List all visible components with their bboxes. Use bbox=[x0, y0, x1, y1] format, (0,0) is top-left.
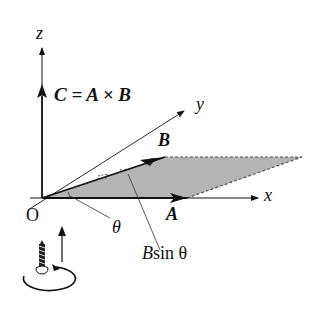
b-sin-theta-label: Bsin θ bbox=[142, 244, 187, 262]
vector-a-label: A bbox=[166, 205, 178, 223]
theta-leader bbox=[70, 196, 110, 218]
y-axis-label: y bbox=[196, 95, 204, 113]
x-axis-label: x bbox=[264, 186, 272, 204]
screw-rotation-icon bbox=[23, 226, 75, 291]
b-sin-theta-rest: sin θ bbox=[153, 243, 187, 263]
b-sin-theta-b: B bbox=[142, 243, 153, 263]
origin-label: O bbox=[26, 206, 39, 224]
vector-c-label: C = A × B bbox=[54, 85, 131, 104]
theta-label: θ bbox=[112, 218, 121, 236]
z-axis-label: z bbox=[36, 24, 43, 42]
vector-b-label: B bbox=[158, 131, 170, 149]
cross-product-diagram: z y x O C = A × B B A θ Bsin θ bbox=[0, 0, 320, 315]
diagram-graphics bbox=[0, 0, 320, 315]
parallelogram-area bbox=[42, 157, 302, 198]
